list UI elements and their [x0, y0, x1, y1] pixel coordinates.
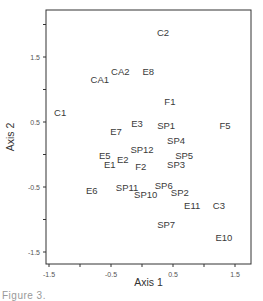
figure-caption-partial: Figure 3.: [2, 290, 46, 301]
point-label-c3: C3: [213, 200, 225, 211]
x-tick-label: 0.5: [168, 271, 178, 278]
y-tick-label: 1.5: [30, 54, 40, 61]
point-label-sp1: SP1: [157, 120, 175, 131]
point-label-e8: E8: [142, 66, 154, 77]
point-label-sp12: SP12: [130, 144, 153, 155]
point-label-f2: F2: [135, 161, 146, 172]
point-label-sp3: SP3: [167, 159, 185, 170]
point-label-sp10: SP10: [134, 189, 157, 200]
y-tick-label: 0.5: [30, 119, 40, 126]
point-label-f5: F5: [220, 120, 231, 131]
x-tick-label: 1.5: [230, 271, 240, 278]
point-label-sp7: SP7: [157, 219, 175, 230]
y-axis-title: Axis 2: [4, 123, 16, 152]
point-label-e6: E6: [86, 185, 98, 196]
point-label-e7: E7: [110, 126, 122, 137]
y-tick-label: -0.5: [28, 184, 40, 191]
y-tick-label: -1.5: [28, 249, 40, 256]
point-label-sp4: SP4: [167, 135, 185, 146]
point-label-e10: E10: [215, 232, 232, 243]
point-label-c2: C2: [157, 27, 169, 38]
point-label-ca1: CA1: [91, 74, 109, 85]
point-label-ca2: CA2: [111, 66, 129, 77]
point-label-c1: C1: [54, 107, 66, 118]
x-tick-label: -1.5: [43, 271, 55, 278]
y-axis-ticks: -1.5-0.50.51.5: [28, 25, 46, 256]
point-label-f1: F1: [164, 96, 175, 107]
x-axis-title: Axis 1: [134, 276, 163, 288]
point-label-sp2: SP2: [171, 187, 189, 198]
data-point-labels: C2CA1CA2E8C1F1E3SP1F5E7SP4SP12E5E2SP5E1F…: [54, 27, 232, 243]
point-label-e11: E11: [184, 200, 200, 211]
point-label-e2: E2: [117, 154, 129, 165]
x-tick-label: -0.5: [105, 271, 117, 278]
point-label-e3: E3: [131, 118, 143, 129]
point-label-e1: E1: [104, 159, 116, 170]
plot-frame: [46, 10, 251, 264]
